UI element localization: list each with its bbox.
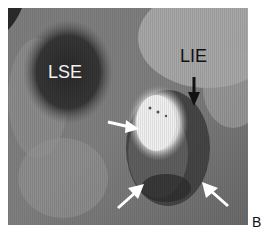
image-canvas <box>8 8 248 225</box>
panel-label: B <box>252 215 261 229</box>
lse-label: LSE <box>48 63 82 81</box>
lie-label: LIE <box>180 47 207 65</box>
grayscale-medical-image <box>8 8 248 225</box>
